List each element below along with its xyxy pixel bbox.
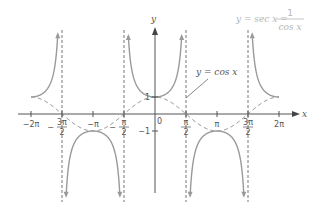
cos-label-text: y = cos x: [195, 67, 237, 77]
x-tick-label: −2π: [23, 120, 40, 129]
cos-curve-label: y = cos x: [195, 67, 237, 77]
x-tick-label-numerator: π: [122, 118, 127, 127]
arrow-icon: [188, 192, 193, 198]
y-axis-label: y: [150, 14, 157, 24]
arrow-icon: [117, 192, 122, 198]
y-axis-arrow-icon: [152, 27, 158, 35]
sec-branch: [66, 131, 120, 196]
x-tick-label-denominator: 2: [121, 128, 126, 137]
x-ticks: −2π3π2−−ππ2−π2π3π22π: [23, 111, 284, 137]
arrow-icon: [55, 32, 60, 38]
y-tick-label: −1: [138, 127, 150, 136]
x-tick-label-numerator: 3π: [57, 118, 67, 127]
x-tick-label: 2π: [274, 120, 284, 129]
chart-title: y = sec x = 1 cos x: [235, 8, 304, 32]
x-tick-label-denominator: 2: [59, 128, 64, 137]
arrow-icon: [126, 34, 131, 40]
arrow-icon: [250, 32, 255, 38]
sec-branch: [190, 131, 244, 196]
title-numerator: 1: [287, 8, 293, 18]
x-axis-arrow-icon: [292, 111, 300, 117]
x-tick-label-sign: −: [109, 123, 116, 132]
title-denominator: cos x: [278, 22, 301, 32]
x-tick-label: −π: [87, 120, 99, 129]
x-axis-label: x: [302, 109, 307, 119]
origin-label: 0: [157, 117, 162, 126]
arrow-icon: [64, 192, 69, 198]
x-tick-label-denominator: 2: [183, 128, 188, 137]
cos-label-leader: [186, 79, 208, 98]
sec-branch: [252, 34, 279, 97]
x-tick-label-numerator: π: [184, 118, 189, 127]
arrow-icon: [179, 34, 184, 40]
y-tick-label: 1: [145, 93, 150, 102]
sec-cos-chart: x y 0 −2π3π2−−ππ2−π2π3π22π 1−1 y = cos x…: [0, 0, 310, 210]
sec-branch: [31, 34, 58, 97]
arrow-icon: [241, 192, 246, 198]
x-tick-label-sign: −: [47, 123, 54, 132]
x-tick-label: π: [215, 120, 220, 129]
x-tick-label-numerator: 3π: [243, 118, 253, 127]
x-tick-label-denominator: 2: [245, 128, 250, 137]
